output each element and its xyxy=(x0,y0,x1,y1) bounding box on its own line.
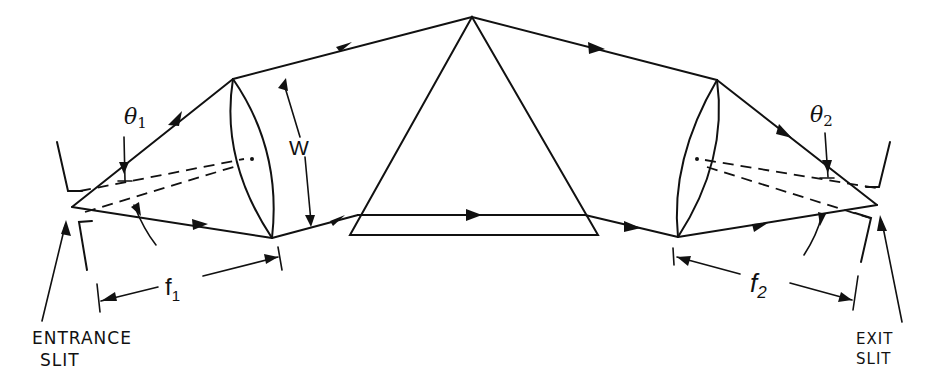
exit-label-line1: EXIT xyxy=(856,330,893,348)
f1-dimension: f1 xyxy=(97,247,282,312)
exit-cone-rays xyxy=(678,80,877,237)
focusing-lens xyxy=(677,80,719,237)
entrance-label-line1: ENTRANCE xyxy=(32,328,132,348)
dispersed-beam xyxy=(472,17,717,237)
f2-label: f2 xyxy=(750,268,767,302)
spectrometer-diagram: θ1 W xyxy=(0,0,940,392)
exit-label-line2: SLIT xyxy=(856,350,891,368)
exit-slit-callout: EXIT SLIT xyxy=(856,215,902,368)
entrance-label-line2: SLIT xyxy=(40,350,80,370)
f1-label: f1 xyxy=(165,273,180,304)
theta1-label: θ1 xyxy=(124,104,147,132)
width-label: W xyxy=(289,136,309,159)
theta1-marker: θ1 xyxy=(118,104,156,245)
theta2-label: θ2 xyxy=(810,102,833,130)
entrance-axis-dashes xyxy=(80,157,254,212)
f2-dimension: f2 xyxy=(673,248,858,310)
collimated-beam xyxy=(233,17,472,238)
prism xyxy=(350,17,598,235)
beam-width-dimension: W xyxy=(278,78,315,227)
